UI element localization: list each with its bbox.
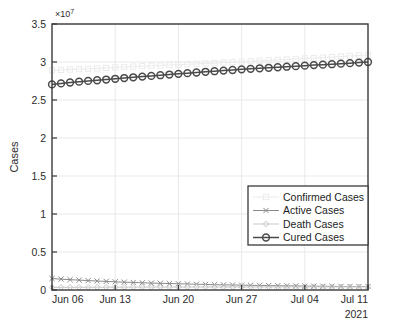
plot-border — [52, 24, 368, 290]
y-axis-exponent-label: ×107 — [55, 8, 74, 20]
legend-label: Active Cases — [283, 204, 344, 216]
y-tick-label: 1 — [40, 208, 46, 220]
series-confirmed-cases — [49, 52, 370, 73]
y-tick-label: 3 — [40, 56, 46, 68]
x-tick-label: Jun 20 — [163, 293, 195, 305]
y-axis-exponent: ×107 — [55, 8, 74, 20]
legend[interactable]: Confirmed CasesActive CasesDeath CasesCu… — [248, 186, 368, 245]
gridlines — [52, 24, 368, 290]
series-line — [52, 279, 368, 287]
x-axis-year-label: 2021 — [345, 308, 369, 320]
y-tick-label: 0 — [40, 284, 46, 296]
x-tick-label: Jun 27 — [226, 293, 258, 305]
y-tick-label: 3.5 — [31, 18, 46, 30]
figure-container: 00.511.522.533.5Jun 06Jun 13Jun 20Jun 27… — [0, 0, 396, 332]
x-tick-label: Jun 06 — [52, 293, 84, 305]
chart-canvas: 00.511.522.533.5Jun 06Jun 13Jun 20Jun 27… — [0, 0, 396, 332]
x-tick-label: Jun 13 — [99, 293, 131, 305]
y-tick-label: 0.5 — [31, 246, 46, 258]
x-tick-label: Jul 11 — [341, 293, 368, 305]
legend-label: Cured Cases — [283, 231, 344, 243]
y-axis-title: Cases — [8, 141, 20, 173]
legend-label: Confirmed Cases — [283, 191, 364, 203]
y-axis: 00.511.522.533.5 — [31, 18, 57, 296]
y-tick-label: 1.5 — [31, 170, 46, 182]
legend-label: Death Cases — [283, 218, 344, 230]
y-tick-label: 2.5 — [31, 94, 46, 106]
y-tick-label: 2 — [40, 132, 46, 144]
axis-box — [52, 24, 368, 290]
x-tick-label: Jul 04 — [291, 293, 319, 305]
